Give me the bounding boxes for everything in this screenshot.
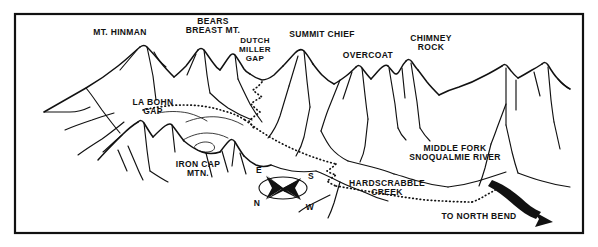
valley-wall-north-a xyxy=(210,93,252,120)
river-bank-east-e xyxy=(518,173,570,187)
ridge-summit-chief-spur-a xyxy=(304,51,310,107)
label-dutch-miller-gap-line1: DUTCH xyxy=(240,36,270,45)
ridge-hinman-foot-b xyxy=(86,88,120,133)
trail-road-junction xyxy=(472,188,498,202)
label-to-north-bend: TO NORTH BEND xyxy=(441,211,516,221)
compass-label-s: S xyxy=(308,171,314,181)
label-hardscrabble-creek-line2: CREEK xyxy=(371,187,403,197)
basin-outline-c xyxy=(158,112,207,122)
ridge-east-saddle xyxy=(439,66,502,95)
map-labels-group: MT. HINMAN BEARS BREAST MT. DUTCH MILLER… xyxy=(93,16,516,221)
map-drawing-canvas: MT. HINMAN BEARS BREAST MT. DUTCH MILLER… xyxy=(0,0,598,247)
ridge-east-spur-e xyxy=(534,72,540,96)
ridge-chimney-spire-3 xyxy=(418,70,439,95)
trail-river-switchbacks xyxy=(327,164,336,186)
valley-wall-north-e xyxy=(321,131,348,161)
ridge-chimney-approach xyxy=(371,65,388,79)
basin-outline-b xyxy=(183,133,228,140)
ridge-hinman-spur-c xyxy=(120,50,137,70)
creek-branch-b xyxy=(299,195,330,212)
ridge-dutch-miller-gap-notch xyxy=(250,66,283,80)
ridge-east-spur-b xyxy=(491,104,506,144)
compass-label-e: E xyxy=(256,165,262,175)
skyline-ridge-group xyxy=(44,46,570,156)
compass-label-w: W xyxy=(306,202,315,212)
panorama-map: MT. HINMAN BEARS BREAST MT. DUTCH MILLER… xyxy=(0,0,598,247)
trail-route-group xyxy=(143,82,498,202)
ridge-overcoat-west xyxy=(334,67,356,84)
ridge-chimney-face-b xyxy=(398,128,406,140)
river-bank-east-d xyxy=(506,125,518,173)
label-chimney-rock-line2: ROCK xyxy=(418,42,445,52)
ridge-ironcap-spur-c xyxy=(222,151,228,172)
label-mt-hinman: MT. HINMAN xyxy=(93,27,147,37)
ridge-ironcap-spur-a xyxy=(232,142,235,166)
ridge-chimney-face-c xyxy=(411,63,420,128)
ridge-chimney-face-e xyxy=(402,68,405,98)
ridge-east-peak-2 xyxy=(518,64,542,78)
ridge-east-peak-1 xyxy=(502,65,518,78)
ridge-chimney-face-a xyxy=(389,68,398,128)
basin-outline-a xyxy=(186,117,243,125)
label-la-bohn-gap-line2: GAP xyxy=(143,106,162,116)
ridge-labohn-right xyxy=(153,124,184,141)
ridge-chimney-face-d xyxy=(420,128,430,141)
ridge-bears-breast-summit xyxy=(198,49,220,71)
ridge-hinman-summit xyxy=(140,46,174,78)
ridge-hinman-spur-b xyxy=(154,52,166,67)
ridge-hinman-foot-d xyxy=(78,122,124,155)
label-snoqualmie-river-line2: SNOQUALMIE RIVER xyxy=(409,152,501,162)
ridge-hinman-foot-c xyxy=(65,113,114,130)
label-bears-breast-mt-line2: BREAST MT. xyxy=(186,25,241,35)
label-iron-cap-mtn-line2: MTN. xyxy=(187,168,209,178)
creek-branch-a xyxy=(328,182,340,218)
label-summit-chief: SUMMIT CHIEF xyxy=(289,29,355,39)
ridge-east-spur-d xyxy=(548,67,554,122)
compass-label-n: N xyxy=(254,198,261,208)
ridge-bears-spur-b xyxy=(187,54,196,75)
ridge-labohn-spur-c xyxy=(118,150,127,171)
compass-needle-cross-b xyxy=(283,178,301,200)
valley-wall-north-f xyxy=(360,119,368,162)
ridge-chimney-spire-1 xyxy=(388,61,406,74)
compass-needle-cross-a xyxy=(266,176,283,199)
valley-wall-north-c xyxy=(268,86,289,138)
compass-rose xyxy=(259,175,307,200)
ridge-east-spur-f xyxy=(558,79,570,89)
river-bank-north-b xyxy=(348,161,394,174)
label-dutch-miller-gap-line3: GAP xyxy=(246,54,265,63)
ridge-summit-chief-spur-b xyxy=(289,56,298,86)
ridge-overcoat-spur-c xyxy=(321,80,340,131)
river-bank-east-f xyxy=(554,122,560,149)
ridge-summit-chief-east xyxy=(313,64,334,84)
valley-wall-north-d xyxy=(296,107,310,156)
ridge-overcoat-spur-b xyxy=(343,72,352,99)
ridge-east-peak-3 xyxy=(542,63,570,89)
valley-floor-left xyxy=(150,171,168,182)
ridge-labohn-spur-b xyxy=(128,146,143,180)
label-dutch-miller-gap-line2: MILLER xyxy=(239,45,271,54)
trail-lower-river xyxy=(336,186,472,202)
label-overcoat: OVERCOAT xyxy=(343,50,394,60)
ridge-hinman-west-slope xyxy=(44,47,140,112)
map-border-frame xyxy=(15,14,583,233)
ridge-bears-breast-west xyxy=(174,50,198,77)
